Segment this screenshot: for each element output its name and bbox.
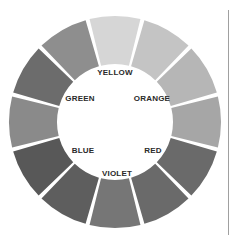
label-blue: BLUE <box>72 146 95 155</box>
wheel-segment <box>90 16 141 66</box>
wheel-segment <box>90 178 141 228</box>
wheel-segments <box>9 16 221 228</box>
color-wheel: YELLOW ORANGE RED VIOLET BLUE GREEN <box>0 0 231 239</box>
wheel-segment <box>171 97 221 148</box>
label-violet: VIOLET <box>102 169 132 178</box>
label-green: GREEN <box>65 94 94 103</box>
frame-edge-line <box>228 10 229 235</box>
label-red: RED <box>144 146 162 155</box>
label-orange: ORANGE <box>134 94 171 103</box>
label-yellow: YELLOW <box>97 68 133 77</box>
wheel-segment <box>9 97 59 148</box>
